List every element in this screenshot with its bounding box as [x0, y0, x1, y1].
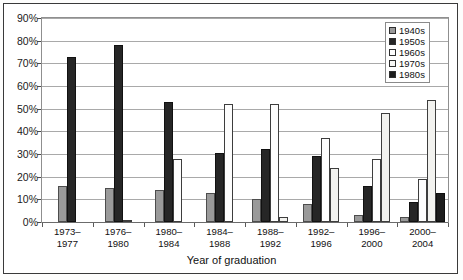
bar — [155, 190, 164, 222]
x-axis-tick-mark — [448, 223, 449, 227]
legend: 1940s1950s1960s1970s1980s — [385, 22, 430, 83]
legend-item-label: 1970s — [399, 59, 425, 69]
bar — [105, 188, 114, 222]
bar — [354, 215, 363, 222]
bar — [58, 186, 67, 222]
bar — [261, 149, 270, 222]
x-axis-tick-label: 1973– 1977 — [42, 226, 93, 252]
bar — [206, 193, 215, 222]
legend-item: 1970s — [389, 58, 425, 69]
legend-item-label: 1980s — [399, 70, 425, 80]
bar — [303, 204, 312, 222]
bar — [330, 168, 339, 222]
x-axis-tick-label: 1988– 1992 — [245, 226, 296, 252]
legend-item-label: 1960s — [399, 48, 425, 58]
x-axis-tick-labels: 1973– 19771976– 19801980– 19841984– 1988… — [42, 226, 448, 252]
bar — [427, 100, 436, 222]
bar — [270, 104, 279, 222]
bar — [418, 179, 427, 222]
legend-item: 1980s — [389, 69, 425, 80]
x-axis-tick-label: 1992– 1996 — [296, 226, 347, 252]
y-axis-tick-marks — [0, 18, 45, 222]
bar-group — [296, 18, 347, 222]
bar-group — [245, 18, 296, 222]
bar — [123, 220, 132, 222]
bar — [381, 113, 390, 222]
legend-item: 1940s — [389, 25, 425, 36]
bar — [409, 202, 418, 222]
bar — [173, 159, 182, 222]
chart-screenshot: 90%80%70%60%50%40%30%20%10%0% 1973– 1977… — [0, 0, 463, 280]
bar — [321, 138, 330, 222]
legend-item: 1960s — [389, 47, 425, 58]
bar-group — [42, 18, 93, 222]
bar — [67, 57, 76, 222]
bar — [363, 186, 372, 222]
bar — [252, 199, 261, 222]
bar — [215, 153, 224, 222]
x-axis-title: Year of graduation — [0, 254, 463, 266]
bar — [312, 156, 321, 222]
legend-swatch-icon — [389, 49, 396, 56]
x-axis-tick-label: 1984– 1988 — [194, 226, 245, 252]
legend-item-label: 1950s — [399, 37, 425, 47]
legend-item-label: 1940s — [399, 26, 425, 36]
legend-swatch-icon — [389, 27, 396, 34]
bar-group — [144, 18, 195, 222]
bar — [372, 159, 381, 222]
bar — [114, 45, 123, 222]
x-axis-tick-label: 1976– 1980 — [93, 226, 144, 252]
bar — [436, 193, 445, 222]
bar — [164, 102, 173, 222]
x-axis-tick-label: 1996– 2000 — [347, 226, 398, 252]
x-axis-tick-label: 1980– 1984 — [144, 226, 195, 252]
bar — [279, 217, 288, 222]
bar-group — [194, 18, 245, 222]
bar-group — [93, 18, 144, 222]
x-axis-tick-label: 2000– 2004 — [397, 226, 448, 252]
bar — [400, 217, 409, 222]
legend-swatch-icon — [389, 71, 396, 78]
bar — [224, 104, 233, 222]
legend-swatch-icon — [389, 38, 396, 45]
legend-item: 1950s — [389, 36, 425, 47]
legend-swatch-icon — [389, 60, 396, 67]
